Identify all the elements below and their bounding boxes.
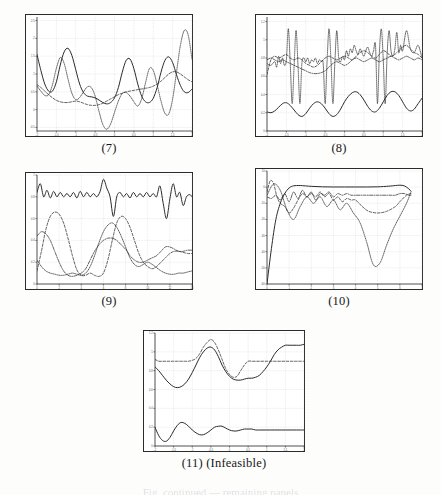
svg-text:-40: -40 <box>261 250 265 254</box>
svg-text:0.6: 0.6 <box>31 217 35 221</box>
svg-text:-1.5: -1.5 <box>284 133 289 137</box>
svg-text:-1: -1 <box>191 448 194 452</box>
svg-text:-2: -2 <box>154 448 157 452</box>
svg-text:0.8: 0.8 <box>149 369 153 373</box>
panel-10-gridlines <box>267 171 422 284</box>
svg-text:0.5: 0.5 <box>246 448 250 452</box>
svg-text:2: 2 <box>191 133 193 137</box>
svg-text:6: 6 <box>399 286 401 290</box>
panel-8-plot-frame: -2-1.5-1-0.500.511.5200.20.40.60.811.2 <box>255 14 423 137</box>
svg-text:0.5: 0.5 <box>362 133 366 137</box>
panel-8-gridlines <box>267 17 422 131</box>
svg-text:-0.5: -0.5 <box>323 133 328 137</box>
svg-text:-2: -2 <box>36 133 39 137</box>
panel-10-series-dotted-deep <box>267 184 411 267</box>
svg-text:-0.5: -0.5 <box>209 448 214 452</box>
svg-text:-60: -60 <box>261 282 265 286</box>
panel-9-svg: 0246810121400.20.40.60.81 <box>26 173 194 291</box>
svg-text:3: 3 <box>333 286 335 290</box>
svg-text:-30: -30 <box>261 234 265 238</box>
svg-text:1: 1 <box>266 448 268 452</box>
panel-9-series-dashed-a <box>37 212 192 276</box>
panel-8-svg: -2-1.5-1-0.500.511.5200.20.40.60.811.2 <box>256 15 424 138</box>
svg-text:7: 7 <box>421 286 423 290</box>
svg-text:0.8: 0.8 <box>31 195 35 199</box>
svg-text:-0.5: -0.5 <box>30 125 35 129</box>
panel-10: 01234567-60-50-40-30-20-10010(10) <box>255 168 423 312</box>
svg-text:0.6: 0.6 <box>261 74 265 78</box>
svg-text:1.5: 1.5 <box>171 133 175 137</box>
svg-text:0.6: 0.6 <box>149 388 153 392</box>
panel-7: -2-1.5-1-0.500.511.52-0.500.511.522.5(7) <box>25 14 193 159</box>
svg-text:12: 12 <box>168 286 171 290</box>
panel-7-svg: -2-1.5-1-0.500.511.52-0.500.511.522.5 <box>26 15 194 138</box>
panel-10-axes <box>267 171 422 284</box>
svg-text:10: 10 <box>146 286 149 290</box>
svg-text:2: 2 <box>311 286 313 290</box>
svg-text:-1: -1 <box>75 133 78 137</box>
svg-text:0.2: 0.2 <box>149 425 153 429</box>
panel-10-plot-frame: 01234567-60-50-40-30-20-10010 <box>255 168 423 290</box>
svg-text:1: 1 <box>33 72 35 76</box>
svg-text:0: 0 <box>263 185 265 189</box>
svg-text:1: 1 <box>153 133 155 137</box>
svg-text:0: 0 <box>344 133 346 137</box>
svg-text:1: 1 <box>383 133 385 137</box>
panel-8-caption: (8) <box>255 141 423 156</box>
svg-text:-0.5: -0.5 <box>93 133 98 137</box>
panel-8-tick-labels: -2-1.5-1-0.500.511.5200.20.40.60.811.2 <box>261 20 423 138</box>
panel-10-series-dashdot-wave <box>267 190 411 201</box>
panel-9: 0246810121400.20.40.60.81(9) <box>25 172 193 312</box>
panel-11: -2-1.5-1-0.500.511.5200.20.40.60.811.2(1… <box>143 330 305 474</box>
svg-text:2: 2 <box>58 286 60 290</box>
svg-text:0.5: 0.5 <box>132 133 136 137</box>
svg-text:6: 6 <box>103 286 105 290</box>
svg-text:-10: -10 <box>261 201 265 205</box>
svg-text:1.5: 1.5 <box>31 54 35 58</box>
svg-text:0: 0 <box>36 286 38 290</box>
svg-text:2.5: 2.5 <box>31 19 35 23</box>
panel-11-gridlines <box>155 333 304 446</box>
svg-text:0.2: 0.2 <box>261 111 265 115</box>
svg-text:0: 0 <box>114 133 116 137</box>
svg-text:8: 8 <box>125 286 127 290</box>
svg-text:-20: -20 <box>261 217 265 221</box>
svg-text:10: 10 <box>262 169 265 173</box>
panel-8: -2-1.5-1-0.500.511.5200.20.40.60.811.2(8… <box>255 14 423 159</box>
svg-text:1: 1 <box>288 286 290 290</box>
svg-text:2: 2 <box>303 448 305 452</box>
svg-text:-1.5: -1.5 <box>54 133 59 137</box>
svg-text:-50: -50 <box>261 266 265 270</box>
svg-text:4: 4 <box>355 286 357 290</box>
panel-10-svg: 01234567-60-50-40-30-20-10010 <box>256 169 424 291</box>
svg-text:14: 14 <box>191 286 194 290</box>
svg-text:0.5: 0.5 <box>31 90 35 94</box>
svg-text:0: 0 <box>229 448 231 452</box>
cut-off-footer-text: Fig. continued — remaining panels <box>0 486 441 495</box>
panel-8-axes <box>267 17 422 131</box>
panel-7-caption: (7) <box>25 141 193 156</box>
svg-text:-2: -2 <box>266 133 269 137</box>
svg-text:0: 0 <box>266 286 268 290</box>
svg-text:0: 0 <box>33 108 35 112</box>
panel-10-series-dashed-mid <box>267 180 411 213</box>
svg-text:1.5: 1.5 <box>401 133 405 137</box>
svg-text:0.4: 0.4 <box>261 93 265 97</box>
svg-text:0.4: 0.4 <box>31 238 35 242</box>
panel-9-caption: (9) <box>25 294 193 309</box>
panel-10-series-group <box>267 180 411 284</box>
svg-text:0: 0 <box>33 282 35 286</box>
svg-text:2: 2 <box>33 36 35 40</box>
panel-7-tick-labels: -2-1.5-1-0.500.511.52-0.500.511.522.5 <box>30 19 193 138</box>
panel-10-series-solid-top <box>267 185 411 284</box>
panel-11-caption: (11) (Infeasible) <box>143 456 305 471</box>
svg-text:2: 2 <box>421 133 423 137</box>
svg-text:4: 4 <box>81 286 83 290</box>
svg-text:1.5: 1.5 <box>284 448 288 452</box>
svg-text:0: 0 <box>263 129 265 133</box>
panel-11-svg: -2-1.5-1-0.500.511.5200.20.40.60.811.2 <box>144 331 306 453</box>
panel-9-tick-labels: 0246810121400.20.40.60.81 <box>31 173 194 290</box>
svg-text:1: 1 <box>33 173 35 177</box>
svg-text:-1.5: -1.5 <box>171 448 176 452</box>
panel-9-plot-frame: 0246810121400.20.40.60.81 <box>25 172 193 290</box>
